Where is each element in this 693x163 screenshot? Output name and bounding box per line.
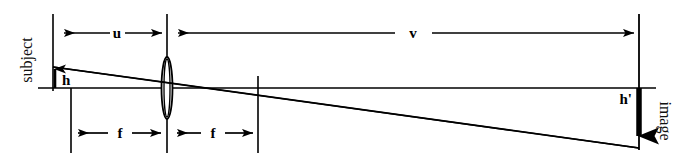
diagram-canvas: u v f f h h' subject image	[0, 0, 693, 163]
parallel-ray-refracted	[167, 83, 639, 149]
label-image-height: h'	[619, 91, 632, 107]
converging-lens	[162, 57, 173, 119]
label-object-height: h	[62, 72, 71, 88]
label-focal-length-right: f	[211, 125, 217, 141]
label-image: image	[656, 101, 674, 140]
label-image-distance: v	[409, 25, 417, 41]
label-focal-length-left: f	[118, 125, 124, 141]
label-object-distance: u	[113, 25, 121, 41]
label-subject: subject	[18, 37, 36, 83]
optics-ray-diagram: u v f f h h' subject image	[0, 0, 693, 163]
